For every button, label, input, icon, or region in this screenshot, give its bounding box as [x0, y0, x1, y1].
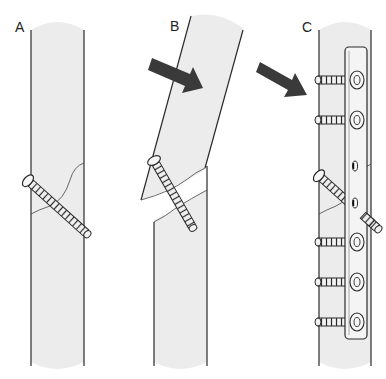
neutralization-plate: [345, 47, 367, 339]
fracture-fixation-figure: A B C: [0, 0, 386, 379]
panel-a: [20, 22, 94, 369]
panel-c: [256, 22, 385, 369]
illustration-canvas: [0, 0, 386, 379]
bone-b-lower: [154, 190, 207, 369]
force-arrow-c: [256, 62, 307, 97]
panel-b: [141, 15, 243, 370]
